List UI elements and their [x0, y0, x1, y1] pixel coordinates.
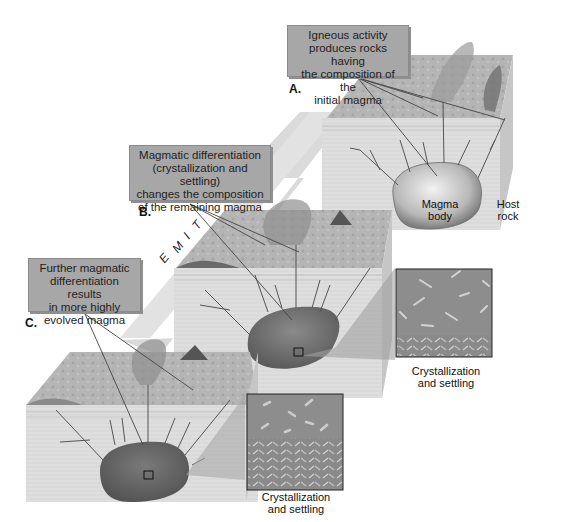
callout-stage-c: Further magmatic differentiation results…: [28, 258, 141, 312]
callout-stage-a: Igneous activity produces rocks having t…: [287, 25, 409, 77]
callout-c-line-2: differentiation results: [33, 275, 136, 301]
callout-stage-b: Magmatic differentiation (crystallizatio…: [129, 145, 271, 201]
magma-body-label: Magma body: [415, 198, 465, 222]
magma-label-line-2: body: [415, 210, 465, 222]
callout-c-line-4: evolved magma: [33, 314, 136, 327]
callout-a-line-2: produces rocks having: [292, 42, 404, 68]
callout-b-line-2: (crystallization and settling): [134, 162, 266, 188]
inset-c-caption: Crystallization and settling: [254, 491, 338, 515]
callout-b-line-4: of the remaining magma: [134, 201, 266, 214]
magmatic-differentiation-diagram: Igneous activity produces rocks having t…: [0, 0, 570, 522]
host-rock-label: Host rock: [490, 198, 526, 222]
inset-b-caption-line-1: Crystallization: [404, 365, 488, 377]
stage-label-b: B.: [139, 205, 151, 219]
inset-b: [396, 269, 492, 357]
host-label-line-2: rock: [490, 210, 526, 222]
callout-b-line-3: changes the composition: [134, 188, 266, 201]
callout-a-line-1: Igneous activity: [292, 29, 404, 42]
callout-b-line-1: Magmatic differentiation: [134, 149, 266, 162]
inset-c: [247, 394, 343, 490]
host-label-line-1: Host: [490, 198, 526, 210]
magma-label-line-1: Magma: [415, 198, 465, 210]
inset-b-caption: Crystallization and settling: [404, 365, 488, 389]
callout-c-line-3: in more highly: [33, 301, 136, 314]
inset-c-caption-line-2: and settling: [254, 503, 338, 515]
block-c: [26, 339, 258, 502]
stage-label-c: C.: [25, 316, 37, 330]
callout-c-line-1: Further magmatic: [33, 262, 136, 275]
inset-c-caption-line-1: Crystallization: [254, 491, 338, 503]
callout-a-line-4: initial magma: [292, 94, 404, 107]
inset-b-caption-line-2: and settling: [404, 377, 488, 389]
callout-a-line-3: the composition of the: [292, 68, 404, 94]
stage-label-a: A.: [289, 82, 301, 96]
